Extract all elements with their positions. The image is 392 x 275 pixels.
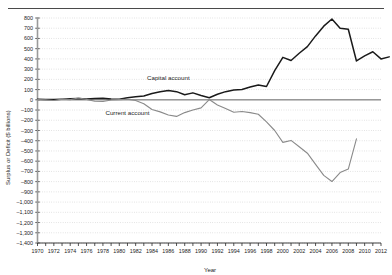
x-axis-tick-label: 1994	[228, 248, 240, 254]
y-axis-tick-label: 600	[24, 35, 33, 41]
y-axis-tick-label: –600	[21, 158, 33, 164]
gridlines-group	[38, 18, 382, 243]
x-axis-tick-label: 1986	[162, 248, 174, 254]
y-axis-tick-label: 200	[24, 76, 33, 82]
y-axis-tick-label: 800	[24, 15, 33, 21]
x-axis-tick-label: 1972	[48, 248, 60, 254]
series-label-current-account: Current account	[105, 109, 149, 116]
y-axis-tick-label: 300	[24, 66, 33, 72]
x-axis-tick-label: 1982	[130, 248, 142, 254]
y-axis-tick-label: –1,300	[17, 230, 34, 236]
series-label-capital-account: Capital account	[147, 74, 190, 81]
y-axis-tick-label: 700	[24, 25, 33, 31]
x-axis-tick-label: 2006	[326, 248, 338, 254]
y-axis-tick-label: –100	[21, 107, 33, 113]
x-axis-tick-labels-group: 1970197219741976197819801982198419861988…	[32, 248, 388, 254]
x-axis-tick-label: 1978	[97, 248, 109, 254]
series-paths-group	[38, 19, 390, 182]
x-axis-tick-label: 2008	[342, 248, 354, 254]
series-line-current-account	[38, 98, 357, 182]
y-axis-tick-label: –1,400	[17, 240, 34, 246]
x-axis-title: Year	[204, 267, 216, 273]
y-axis-tick-label: –800	[21, 179, 33, 185]
x-axis-tick-label: 2000	[277, 248, 289, 254]
x-axis-tick-label: 1984	[146, 248, 158, 254]
y-axis-tick-label: –400	[21, 138, 33, 144]
x-axis-tick-label: 1970	[32, 248, 44, 254]
x-axis-tick-label: 2012	[375, 248, 387, 254]
x-axis-tick-label: 1976	[81, 248, 93, 254]
y-axis-tick-labels-group: 8007006005004003002001000–100–200–300–40…	[17, 15, 34, 246]
x-axis-tick-label: 2002	[293, 248, 305, 254]
x-axis-tick-label: 1974	[64, 248, 76, 254]
y-axis-tick-label: –900	[21, 189, 33, 195]
y-axis-tick-label: –700	[21, 168, 33, 174]
x-axis-tick-label: 1990	[195, 248, 207, 254]
x-axis-tick-label: 1998	[261, 248, 273, 254]
y-axis-tick-label: 500	[24, 46, 33, 52]
y-axis-tick-label: –300	[21, 128, 33, 134]
x-axis-tick-label: 2004	[310, 248, 322, 254]
y-axis-tick-label: 100	[24, 87, 33, 93]
y-axis-tick-label: –500	[21, 148, 33, 154]
x-axis-tick-label: 1996	[244, 248, 256, 254]
x-axis-tick-label: 1980	[113, 248, 125, 254]
x-axis-tick-label: 1988	[179, 248, 191, 254]
y-axis-tick-label: –1,100	[17, 209, 34, 215]
y-axis-tick-label: –200	[21, 117, 33, 123]
y-axis-tick-label: 0	[30, 97, 33, 103]
chart-container: Surplus or Deficit ($ billions) Year 800…	[0, 0, 392, 275]
y-axis-title: Surplus or Deficit ($ billions)	[5, 110, 11, 185]
y-axis-tick-label: –1,000	[17, 199, 34, 205]
x-axis-tick-label: 2010	[359, 248, 371, 254]
series-line-capital-account	[38, 19, 390, 100]
y-axis-tick-label: –1,200	[17, 220, 34, 226]
x-axis-tick-label: 1992	[211, 248, 223, 254]
line-chart: Surplus or Deficit ($ billions) Year 800…	[0, 0, 392, 275]
y-axis-tick-label: 400	[24, 56, 33, 62]
